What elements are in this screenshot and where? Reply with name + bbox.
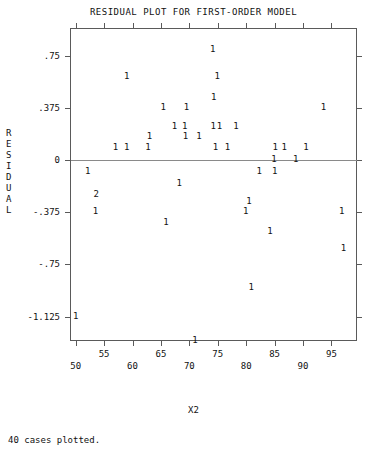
data-point: 1	[302, 143, 310, 152]
data-point: 1	[175, 179, 183, 188]
data-point: 1	[280, 143, 288, 152]
data-point: 1	[183, 103, 191, 112]
y-axis-title-char: D	[6, 172, 11, 183]
data-point: 1	[209, 45, 217, 54]
data-point: 1	[271, 143, 279, 152]
x-axis-label: 80	[231, 361, 261, 371]
x-axis-tick	[76, 341, 77, 346]
x-axis-tick-top	[275, 23, 276, 28]
data-point: 1	[266, 227, 274, 236]
x-axis-tick-top	[161, 23, 162, 28]
x-axis-label: 50	[61, 361, 91, 371]
y-axis-label: .75	[0, 51, 60, 61]
x-axis-tick	[303, 341, 304, 346]
x-axis-tick-top	[303, 23, 304, 28]
data-point: 1	[191, 336, 199, 345]
y-axis-tick	[65, 264, 70, 265]
x-axis-label: 70	[174, 361, 204, 371]
data-point: 1	[223, 143, 231, 152]
x-axis-title: X2	[0, 405, 387, 415]
y-axis-tick-right	[357, 264, 362, 265]
data-point: 1	[72, 312, 80, 321]
y-axis-label: -1.125	[0, 312, 60, 322]
data-point: 1	[242, 207, 250, 216]
y-axis-tick	[65, 56, 70, 57]
y-axis-tick-right	[357, 56, 362, 57]
x-axis-label: 55	[89, 349, 119, 359]
x-axis-tick	[246, 341, 247, 346]
y-axis-tick	[65, 212, 70, 213]
data-point: 1	[171, 122, 179, 131]
data-point: 1	[195, 132, 203, 141]
data-point: 1	[292, 155, 300, 164]
x-axis-tick-top	[189, 23, 190, 28]
data-point: 2	[92, 190, 100, 199]
data-point: 1	[92, 207, 100, 216]
y-axis-tick	[65, 108, 70, 109]
data-point: 1	[247, 283, 255, 292]
data-point: 1	[232, 122, 240, 131]
y-axis-title-char: R	[6, 128, 11, 139]
x-axis-tick-top	[133, 23, 134, 28]
x-axis-tick	[331, 341, 332, 346]
y-axis-tick-right	[357, 108, 362, 109]
data-point: 1	[319, 103, 327, 112]
x-axis-label: 75	[203, 349, 233, 359]
data-point: 1	[338, 207, 346, 216]
data-point: 1	[211, 143, 219, 152]
x-axis-label: 95	[316, 349, 346, 359]
data-point: 1	[159, 103, 167, 112]
x-axis-label: 85	[260, 349, 290, 359]
x-axis-tick-top	[76, 23, 77, 28]
x-axis-tick	[218, 341, 219, 346]
data-point: 1	[270, 155, 278, 164]
x-axis-label: 90	[288, 361, 318, 371]
cases-plotted-footer: 40 cases plotted.	[8, 435, 100, 445]
x-axis-tick-top	[331, 23, 332, 28]
y-axis-label: .375	[0, 103, 60, 113]
residual-plot-page: RESIDUAL PLOT FOR FIRST-ORDER MODEL R E …	[0, 0, 387, 456]
x-axis-tick	[161, 341, 162, 346]
data-point: 1	[181, 122, 189, 131]
zero-reference-line	[71, 160, 357, 161]
data-point: 1	[339, 244, 347, 253]
y-axis-label: -.375	[0, 207, 60, 217]
data-point: 1	[111, 143, 119, 152]
data-point: 1	[215, 122, 223, 131]
data-point: 1	[146, 132, 154, 141]
x-axis-label: 65	[146, 349, 176, 359]
x-axis-tick	[275, 341, 276, 346]
y-axis-title-char: E	[6, 139, 11, 150]
data-point: 1	[162, 218, 170, 227]
data-point: 1	[213, 72, 221, 81]
x-axis-tick-top	[218, 23, 219, 28]
data-point: 1	[210, 93, 218, 102]
y-axis-tick	[65, 317, 70, 318]
y-axis-tick-right	[357, 317, 362, 318]
x-axis-tick	[133, 341, 134, 346]
x-axis-label: 60	[118, 361, 148, 371]
y-axis-label: -.75	[0, 259, 60, 269]
page-title: RESIDUAL PLOT FOR FIRST-ORDER MODEL	[0, 7, 387, 17]
y-axis-tick	[65, 160, 70, 161]
y-axis-title-char: U	[6, 183, 11, 194]
y-axis-tick-right	[357, 160, 362, 161]
x-axis-tick	[104, 341, 105, 346]
data-point: 1	[123, 72, 131, 81]
x-axis-tick-top	[246, 23, 247, 28]
data-point: 1	[245, 197, 253, 206]
y-axis-label: 0	[0, 155, 60, 165]
y-axis-tick-right	[357, 212, 362, 213]
data-point: 1	[144, 143, 152, 152]
data-point: 1	[271, 167, 279, 176]
data-point: 1	[123, 143, 131, 152]
y-axis-title: R E S I D U A L	[6, 128, 11, 216]
data-point: 1	[84, 167, 92, 176]
y-axis-title-char: A	[6, 194, 11, 205]
data-point: 1	[255, 167, 263, 176]
data-point: 1	[181, 132, 189, 141]
x-axis-tick-top	[104, 23, 105, 28]
